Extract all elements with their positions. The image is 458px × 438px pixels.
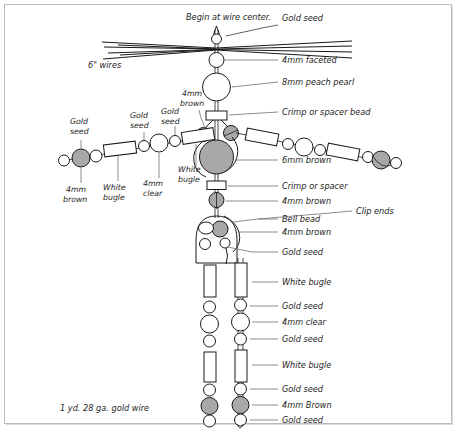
bead-gold-seed-left-arm-1 <box>90 150 102 162</box>
label-clip-ends: Clip ends <box>356 206 394 216</box>
bead-gold-seed-in-bell-right <box>220 238 230 248</box>
label-crimp-or-spacer-bead: Crimp or spacer bead <box>282 107 371 117</box>
bead-4mm-brown-right <box>232 397 249 414</box>
label-8mm-peach-pearl: 8mm peach pearl <box>282 77 355 87</box>
label-gold-seed-arm-2b: seed <box>130 121 149 130</box>
label-gold-seed-arm-3b: seed <box>161 117 180 126</box>
bead-4mm-brown-waist <box>209 192 224 209</box>
bead-4mm-faceted <box>209 53 224 68</box>
bead-4mm-brown-left <box>201 398 218 415</box>
label-6mm-brown: 6mm brown <box>282 155 331 165</box>
bead-4mm-clear-left-arm <box>150 134 168 152</box>
label-gold-seed-leg-1: Gold seed <box>282 301 324 311</box>
bead-gold-seed-right-1 <box>235 299 247 311</box>
bead-white-bugle-left-arm-1 <box>103 141 136 157</box>
bead-gold-seed-left-3 <box>204 384 216 396</box>
bead-8mm-peach-pearl <box>203 73 231 101</box>
bead-4mm-clear-right <box>232 313 250 331</box>
label-gold-seed-bell: Gold seed <box>282 247 324 257</box>
bead-white-bugle-left-2 <box>204 352 216 382</box>
label-white-bugle-arm-b: bugle <box>103 193 125 202</box>
bead-gold-seed-left-4 <box>204 415 216 427</box>
label-4mm-brown-leg: 4mm Brown <box>282 400 332 410</box>
bead-gold-seed-left-2 <box>204 335 216 347</box>
bead-4mm-brown-left-arm <box>72 149 90 167</box>
bead-white-bugle-right-2 <box>235 350 247 382</box>
leg-right <box>232 258 250 428</box>
bead-gold-seed-top <box>212 26 222 44</box>
label-crimp-or-spacer: Crimp or spacer <box>282 181 348 191</box>
label-white-bugle-leg-2: White bugle <box>282 360 331 370</box>
label-4mm-brown-arm-b: brown <box>63 195 87 204</box>
label-4mm-brown-arm-a: 4mm <box>66 185 87 194</box>
leg-left <box>201 265 219 427</box>
bead-bell-skirt <box>196 216 240 264</box>
label-4mm-brown-bell: 4mm brown <box>282 227 331 237</box>
label-gold-seed-arm-3a: Gold <box>161 107 179 116</box>
label-begin-at-wire-center: Begin at wire center. <box>186 12 271 22</box>
label-gold-seed-leg-2: Gold seed <box>282 334 324 344</box>
bead-4mm-clear-right-arm <box>295 138 313 156</box>
label-gold-seed-arm-1b: seed <box>70 127 89 136</box>
label-shoulder-4mm-b: brown <box>180 99 204 108</box>
bead-gold-seed-in-bell-left <box>200 239 211 250</box>
bead-gold-seed-left-arm-tip <box>59 155 70 166</box>
bead-gold-seed-left-arm-3 <box>170 136 181 147</box>
label-white-bugle-arm-a: White <box>103 183 126 192</box>
label-white-bugle-arm2-b: bugle <box>178 175 200 184</box>
bead-crimp-spacer-waist <box>207 181 226 190</box>
diagram-root: Begin at wire center. Gold seed 4mm face… <box>0 0 458 438</box>
bead-white-bugle-right-arm-1 <box>245 128 279 146</box>
bead-gold-seed-right-3 <box>235 383 247 395</box>
label-shoulder-4mm-a: 4mm <box>182 89 203 98</box>
beaded-angel-diagram: Begin at wire center. Gold seed 4mm face… <box>0 0 458 438</box>
label-gold-wire-note: 1 yd. 28 ga. gold wire <box>60 403 149 413</box>
bead-gold-seed-right-4 <box>235 414 247 426</box>
bead-gold-seed-right-arm-1 <box>283 139 294 150</box>
bead-gold-seed-right-2 <box>235 333 247 345</box>
label-six-inch-wires: 6" wires <box>88 60 122 70</box>
label-4mm-faceted: 4mm faceted <box>282 55 337 65</box>
label-gold-seed-arm-1a: Gold <box>70 117 88 126</box>
label-bell-bead: Bell bead <box>282 214 321 224</box>
bead-gold-seed-right-arm-tip <box>391 158 402 169</box>
label-gold-seed-leg-3: Gold seed <box>282 384 324 394</box>
bead-4mm-brown-in-bell <box>212 221 228 237</box>
bead-crimp-spacer-neck <box>206 111 227 120</box>
label-4mm-clear-arm-b: clear <box>143 189 163 198</box>
bead-gold-seed-left-arm-2 <box>139 141 150 152</box>
label-gold-seed-top: Gold seed <box>282 13 324 23</box>
label-gold-seed-leg-4: Gold seed <box>282 415 324 425</box>
label-white-bugle-leg-1: White bugle <box>282 277 331 287</box>
bead-oval-in-bell <box>199 222 214 234</box>
label-gold-seed-arm-2a: Gold <box>130 111 148 120</box>
label-4mm-brown-waist: 4mm brown <box>282 196 331 206</box>
label-4mm-clear-leg: 4mm clear <box>282 317 327 327</box>
label-white-bugle-arm2-a: White <box>178 165 201 174</box>
bead-white-bugle-left-1 <box>204 265 216 297</box>
bead-4mm-clear-left <box>201 315 219 333</box>
bead-gold-seed-left-1 <box>204 301 216 313</box>
bead-white-bugle-right-1 <box>235 263 247 297</box>
bead-gold-seed-right-arm-2 <box>315 145 326 156</box>
label-4mm-clear-arm-a: 4mm <box>143 179 164 188</box>
